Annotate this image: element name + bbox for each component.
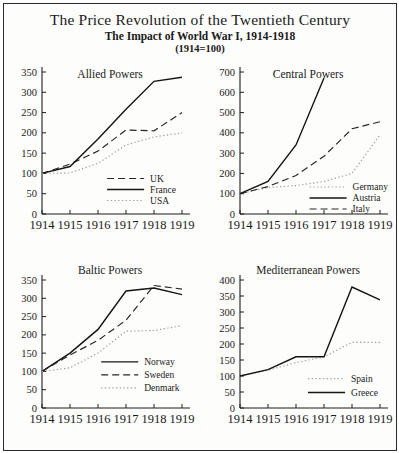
legend-label-sweden: Sweden [144, 370, 174, 380]
x-tick-label: 1915 [58, 412, 83, 426]
y-tick-label: 50 [27, 188, 38, 199]
legend-label-germany: Germany [353, 182, 389, 192]
chart-allied-powers: 0501001502002503003501914191519161917191… [4, 56, 200, 234]
y-tick-label: 50 [27, 384, 38, 395]
figure-title: The Price Revolution of the Twentieth Ce… [4, 11, 396, 29]
y-tick-label: 350 [21, 275, 37, 286]
y-tick-label: 400 [219, 275, 235, 286]
y-tick-label: 150 [21, 348, 37, 359]
chart-central-powers: 0100200300400500600700191419151916191719… [200, 56, 396, 234]
x-tick-label: 1914 [228, 412, 254, 426]
x-tick-label: 1914 [30, 412, 56, 426]
y-tick-label: 100 [219, 188, 235, 199]
legend-label-spain: Spain [351, 374, 373, 384]
y-tick-label: 200 [21, 127, 37, 138]
legend-label-italy: Italy [353, 204, 371, 214]
y-tick-label: 600 [219, 87, 235, 98]
y-tick-label: 150 [219, 355, 235, 366]
series-line-austria [240, 78, 324, 194]
chart-title: Mediterranean Powers [256, 264, 360, 276]
x-tick-label: 1914 [228, 218, 254, 232]
y-tick-label: 250 [21, 311, 37, 322]
x-tick-label: 1917 [312, 412, 337, 426]
x-tick-label: 1916 [86, 412, 111, 426]
x-tick-label: 1916 [284, 218, 309, 232]
y-tick-label: 100 [21, 168, 37, 179]
y-tick-label: 400 [219, 127, 235, 138]
legend: NorwaySwedenDenmark [101, 357, 180, 393]
series-lines [240, 78, 380, 194]
legend: SpainGreece [308, 374, 378, 398]
figure-frame: The Price Revolution of the Twentieth Ce… [3, 3, 397, 451]
figure-subtitle: The Impact of World War I, 1914-1918 [4, 30, 396, 42]
axes: 0501001502002503003504001914191519161917… [219, 275, 392, 427]
y-tick-label: 300 [21, 293, 37, 304]
series-line-greece [240, 287, 380, 376]
axes: 0501001502002503003501914191519161917191… [21, 67, 194, 233]
y-tick-label: 200 [219, 168, 235, 179]
chart-baltic-powers: 0501001502002503003501914191519161917191… [4, 234, 200, 437]
legend-label-usa: USA [150, 196, 169, 206]
x-tick-label: 1915 [256, 412, 281, 426]
x-tick-label: 1919 [170, 218, 195, 232]
y-tick-label: 200 [21, 329, 37, 340]
figure-header: The Price Revolution of the Twentieth Ce… [4, 4, 396, 54]
y-tick-label: 200 [219, 339, 235, 350]
x-tick-label: 1917 [114, 412, 139, 426]
y-tick-label: 500 [219, 107, 235, 118]
x-tick-label: 1919 [170, 412, 195, 426]
chart-mediterranean-powers: 0501001502002503003504001914191519161917… [200, 234, 396, 437]
y-tick-label: 100 [21, 366, 37, 377]
series-line-uk [42, 113, 182, 174]
legend-label-france: France [150, 185, 176, 195]
y-tick-label: 300 [21, 87, 37, 98]
chart-title: Baltic Powers [78, 264, 143, 276]
legend: GermanyAustriaItaly [310, 182, 389, 214]
y-tick-label: 300 [219, 148, 235, 159]
y-tick-label: 350 [219, 291, 235, 302]
y-tick-label: 700 [219, 67, 235, 78]
x-tick-label: 1917 [312, 218, 337, 232]
chart-title: Allied Powers [77, 68, 143, 80]
y-tick-label: 250 [21, 107, 37, 118]
x-tick-label: 1916 [86, 218, 111, 232]
legend-label-denmark: Denmark [144, 383, 180, 393]
y-tick-label: 300 [219, 307, 235, 318]
y-tick-label: 250 [219, 323, 235, 334]
x-tick-label: 1917 [114, 218, 139, 232]
figure-scale-note: (1914=100) [4, 43, 396, 54]
series-lines [240, 287, 380, 376]
series-line-usa [42, 133, 182, 174]
y-tick-label: 100 [219, 371, 235, 382]
legend-label-greece: Greece [351, 388, 378, 398]
x-tick-label: 1918 [340, 412, 365, 426]
x-tick-label: 1915 [58, 218, 83, 232]
legend: UKFranceUSA [107, 174, 176, 206]
x-tick-label: 1918 [142, 412, 167, 426]
x-tick-label: 1919 [368, 412, 393, 426]
series-line-france [42, 77, 182, 173]
axes: 0501001502002503003501914191519161917191… [21, 275, 194, 427]
series-lines [42, 77, 182, 173]
legend-label-norway: Norway [144, 357, 175, 367]
y-tick-label: 350 [21, 67, 37, 78]
y-tick-label: 150 [21, 148, 37, 159]
x-tick-label: 1916 [284, 412, 309, 426]
x-tick-label: 1914 [30, 218, 56, 232]
x-tick-label: 1918 [142, 218, 167, 232]
x-tick-label: 1919 [368, 218, 393, 232]
y-tick-label: 50 [225, 387, 236, 398]
x-tick-label: 1918 [340, 218, 365, 232]
chart-grid: 0501001502002503003501914191519161917191… [4, 56, 396, 437]
chart-title: Central Powers [273, 68, 344, 80]
legend-label-uk: UK [150, 174, 164, 184]
legend-label-austria: Austria [353, 193, 382, 203]
x-tick-label: 1915 [256, 218, 281, 232]
